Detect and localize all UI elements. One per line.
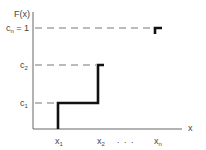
y-tick-cn: cn = 1	[6, 23, 29, 34]
y-tick-c1: c1	[20, 98, 29, 109]
y-tick-c2: c2	[20, 60, 29, 71]
step-function-last-step	[155, 28, 162, 34]
x-tick-x2: x2	[97, 136, 106, 147]
x-tick-xn: xn	[154, 136, 162, 147]
x-tick-ellipsis: . . .	[117, 135, 135, 145]
step-function-chart: F(x) cn = 1 c2 c1 x1 x2 . . . xn x	[0, 0, 206, 150]
y-axis-label: F(x)	[14, 9, 30, 19]
x-tick-x1: x1	[55, 136, 64, 147]
step-function-line	[58, 65, 104, 129]
x-axis-label: x	[188, 123, 193, 133]
